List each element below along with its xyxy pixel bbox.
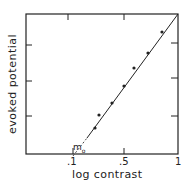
y-axis-label: evoked potential: [6, 29, 20, 139]
x-axis-label: log contrast: [72, 168, 142, 181]
regression-line: [87, 14, 178, 138]
x-tick-label-1: 1: [175, 156, 181, 167]
x-tick-label-0.1: .1: [67, 156, 77, 167]
annotation-main: m: [73, 142, 82, 152]
data-point: [160, 30, 163, 33]
data-point: [132, 66, 135, 69]
chart: evoked potential log contrast .1 .5 1 mo: [0, 0, 189, 192]
data-point: [146, 51, 149, 54]
data-point: [93, 126, 96, 129]
annotation-subscript: o: [82, 147, 86, 154]
data-point: [122, 84, 125, 87]
plot-frame: [26, 14, 178, 154]
plot-area: [0, 0, 189, 192]
threshold-annotation: mo: [73, 142, 85, 154]
x-tick-label-0.5: .5: [119, 156, 129, 167]
data-point: [110, 101, 113, 104]
data-point: [97, 113, 100, 116]
